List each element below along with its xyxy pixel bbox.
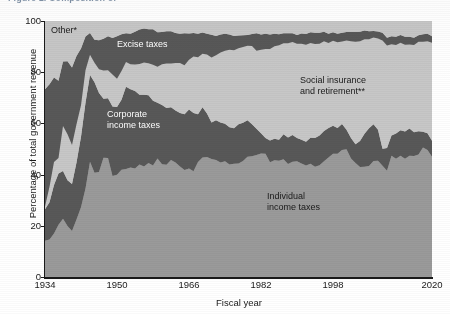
x-tick-label-1966: 1966 — [178, 279, 199, 290]
x-axis-ticks: 193419501966198219982020 — [45, 279, 432, 295]
x-axis-title: Fiscal year — [45, 297, 433, 308]
x-tick-label-1998: 1998 — [322, 279, 343, 290]
x-tick-label-1950: 1950 — [106, 279, 127, 290]
stacked-area-plot: Other* Excise taxes Corporate income tax… — [45, 21, 432, 277]
y-axis-ticks: 020406080100 — [0, 21, 41, 277]
y-tick-label-20: 20 — [1, 220, 41, 231]
x-tick-label-1934: 1934 — [34, 279, 55, 290]
figure-title: Figure 1. Composition of — [8, 0, 116, 3]
x-tick-label-2020: 2020 — [421, 279, 442, 290]
y-tick-label-60: 60 — [1, 117, 41, 128]
y-tick-label-40: 40 — [1, 169, 41, 180]
y-axis-line — [44, 21, 45, 278]
plot-svg — [45, 21, 432, 277]
area-individual-income-taxes — [45, 147, 432, 277]
y-tick-label-100: 100 — [1, 15, 41, 26]
x-tick-label-1982: 1982 — [250, 279, 271, 290]
y-tick-label-80: 80 — [1, 66, 41, 77]
figure-root: Figure 1. Composition of Percentage of t… — [0, 0, 450, 314]
